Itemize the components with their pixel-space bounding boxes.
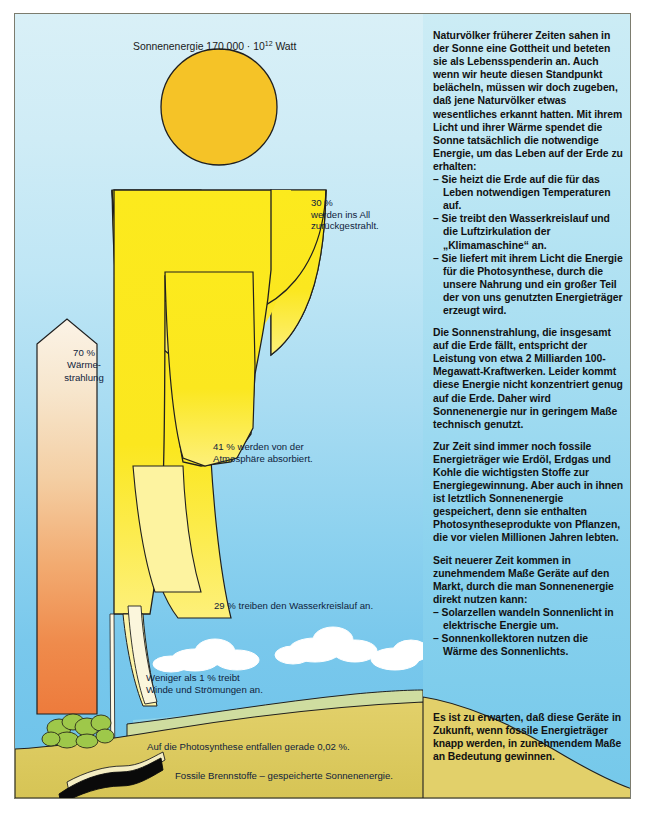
label-wind: Weniger als 1 % treibt Winde und Strömun… [146,672,263,695]
infographic-page: Sonnenenergie 170 000 · 1012 Watt 30 % w… [0,0,645,814]
article-list-2: Solarzellen wandeln Sonnenlicht in elekt… [433,606,624,658]
article-paragraph-2: Die Sonnenstrahlung, die insgesamt auf d… [433,326,624,431]
sun-icon [161,49,277,165]
label-absorbed: 41 % werden von der Atmosphäre absorbier… [213,441,313,464]
article-paragraph-4: Seit neuerer Zeit kommen in zunehmendem … [433,554,624,606]
cloud-group [153,627,423,672]
article-body: Naturvölker früherer Zeiten sahen in der… [433,29,624,667]
label-water-cycle: 29 % treiben den Wasserkreislauf an. [214,600,373,612]
label-heat-radiation: 70 % Wärme- strahlung [53,347,115,384]
article-paragraph-5: Es ist zu erwarten, daß diese Geräte in … [433,711,624,763]
energy-flow-diagram: Sonnenenergie 170 000 · 1012 Watt 30 % w… [15,14,423,798]
list-item: Sonnenkollektoren nutzen die Wärme des S… [433,632,624,658]
list-item: Solarzellen wandeln Sonnenlicht in elekt… [433,606,624,632]
label-reflected: 30 % werden ins All zurückgestrahlt. [311,197,379,232]
list-item: Sie treibt den Wasserkreislauf und die L… [433,212,624,251]
label-photosynthesis: Auf die Photosynthese entfallen gerade 0… [147,741,350,753]
flow-absorbed-block [165,272,255,466]
article-paragraph-3: Zur Zeit sind immer noch fossile Energie… [433,440,624,545]
article-list-1: Sie heizt die Erde auf die für das Leben… [433,173,624,317]
list-item: Sie heizt die Erde auf die für das Leben… [433,173,624,212]
title-exponent: 12 [265,40,273,47]
diagram-title: Sonnenenergie 170 000 · 1012 Watt [133,38,296,53]
bush-group [42,714,114,748]
list-item: Sie liefert mit ihrem Licht die Energie … [433,252,624,317]
label-fossil-fuels: Fossile Brennstoffe – gespeicherte Sonne… [175,770,393,782]
article-paragraph-1: Naturvölker früherer Zeiten sahen in der… [433,29,624,173]
article-panel: Naturvölker früherer Zeiten sahen in der… [423,14,631,798]
figure-frame: Sonnenenergie 170 000 · 1012 Watt 30 % w… [14,13,631,799]
